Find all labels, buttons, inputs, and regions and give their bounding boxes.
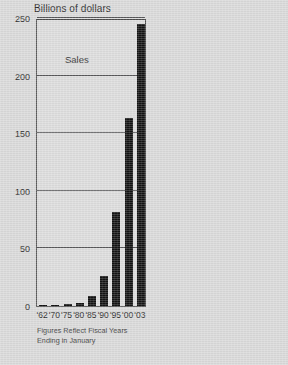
x-tick-label-03: '03 — [134, 310, 145, 320]
bar-00 — [125, 118, 133, 306]
series-label: Sales — [65, 54, 89, 65]
bar-90 — [100, 276, 108, 306]
bar-03 — [137, 24, 145, 306]
y-axis: 050100150200250 — [0, 19, 34, 307]
footnote-line-1: Figures Reflect Fiscal Years — [37, 326, 127, 336]
bar-85 — [88, 296, 96, 306]
y-tick-label-200: 200 — [15, 72, 30, 82]
bar-62 — [39, 305, 47, 306]
x-axis: '62'70'75'80'85'90'95'00'03 — [36, 310, 146, 322]
y-tick-label-250: 250 — [15, 14, 30, 24]
x-tick-label-00: '00 — [122, 310, 133, 320]
gridline-250 — [37, 17, 145, 18]
x-tick-label-70: '70 — [49, 310, 60, 320]
x-tick-label-95: '95 — [110, 310, 121, 320]
chart-footnote: Figures Reflect Fiscal Years Ending in J… — [37, 326, 127, 345]
bar-70 — [51, 305, 59, 306]
chart-title: Billions of dollars — [34, 3, 111, 14]
chart-figure: Billions of dollars 050100150200250 Sale… — [0, 0, 288, 365]
x-tick-label-80: '80 — [73, 310, 84, 320]
y-tick-label-0: 0 — [25, 302, 30, 312]
x-tick-label-62: '62 — [37, 310, 48, 320]
x-tick-label-85: '85 — [85, 310, 96, 320]
bar-80 — [76, 303, 84, 306]
y-tick-label-100: 100 — [15, 187, 30, 197]
x-tick-label-75: '75 — [61, 310, 72, 320]
plot-area: Sales — [36, 19, 146, 307]
bar-series — [37, 20, 145, 306]
bar-95 — [112, 212, 120, 306]
footnote-line-2: Ending in January — [37, 336, 127, 346]
y-tick-label-50: 50 — [20, 244, 30, 254]
bar-75 — [64, 304, 72, 306]
x-tick-label-90: '90 — [98, 310, 109, 320]
y-tick-label-150: 150 — [15, 129, 30, 139]
